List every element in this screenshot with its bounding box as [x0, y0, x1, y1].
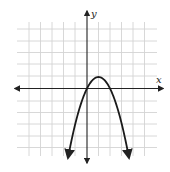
- coordinate-plane: x y: [0, 0, 170, 172]
- x-axis-label: x: [156, 74, 162, 85]
- y-axis-label: y: [90, 8, 97, 19]
